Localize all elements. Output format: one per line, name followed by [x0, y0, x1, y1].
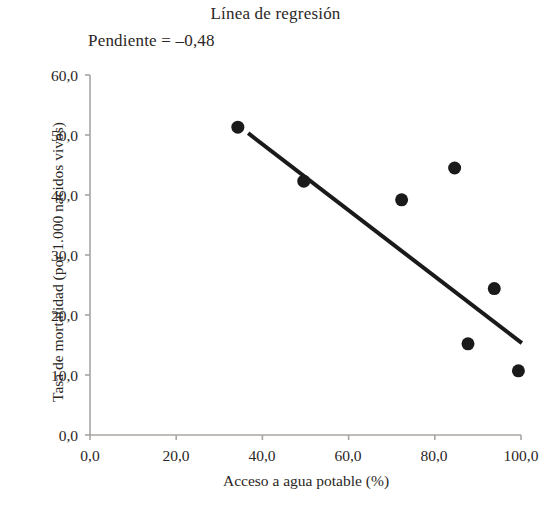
data-point-marker: [461, 337, 474, 350]
data-point-marker: [297, 175, 310, 188]
plot-area: [0, 0, 551, 506]
regression-chart-figure: Línea de regresión Pendiente = –0,48 Tas…: [0, 0, 551, 506]
data-point-marker: [512, 364, 525, 377]
regression-trend-line: [248, 133, 522, 343]
regression-line: [248, 133, 522, 343]
data-points: [231, 121, 525, 378]
data-point-marker: [231, 121, 244, 134]
data-point-marker: [448, 162, 461, 175]
data-point-marker: [488, 282, 501, 295]
axis-lines: [90, 75, 521, 435]
data-point-marker: [395, 193, 408, 206]
